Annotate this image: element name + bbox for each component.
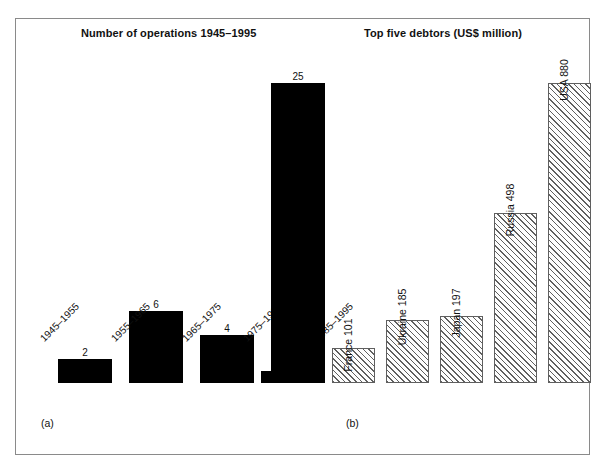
bar-b-ukraine: Ukraine 185 bbox=[386, 320, 429, 383]
chart-b-title: Top five debtors (US$ million) bbox=[364, 27, 522, 39]
panel-b-tag: (b) bbox=[346, 417, 359, 429]
bar-b-russia-label: Russia 498 bbox=[504, 184, 516, 237]
bar-a-1: 2 bbox=[58, 359, 112, 383]
bar-b-usa: USA 880 bbox=[548, 83, 591, 383]
figure-frame: Number of operations 1945–1995 2 6 4 1 1… bbox=[15, 18, 590, 455]
bar-b-russia: Russia 498 bbox=[494, 213, 537, 383]
xlabel-a-1: 1945–1955 bbox=[38, 301, 81, 344]
bar-b-france-label: France 101 bbox=[342, 318, 354, 371]
bar-b-ukraine-label: Ukraine 185 bbox=[396, 289, 408, 346]
bar-a-1-value: 2 bbox=[82, 346, 88, 359]
bar-a-5-tall: 25 bbox=[271, 83, 325, 383]
panel-a-tag: (a) bbox=[41, 417, 54, 429]
bar-a-3: 4 bbox=[200, 335, 254, 383]
bar-a-5-value: 25 bbox=[292, 70, 303, 83]
bar-b-france: France 101 bbox=[332, 348, 375, 383]
bar-a-3-value: 4 bbox=[224, 322, 230, 335]
bar-a-2-value: 6 bbox=[153, 298, 159, 311]
bar-b-japan-label: Japan 197 bbox=[450, 288, 462, 337]
chart-panel-b: Top five debtors (US$ million) France 10… bbox=[321, 19, 591, 454]
bar-b-usa-label: USA 880 bbox=[558, 59, 570, 100]
chart-a-title: Number of operations 1945–1995 bbox=[81, 27, 256, 39]
bar-b-japan: Japan 197 bbox=[440, 316, 483, 383]
